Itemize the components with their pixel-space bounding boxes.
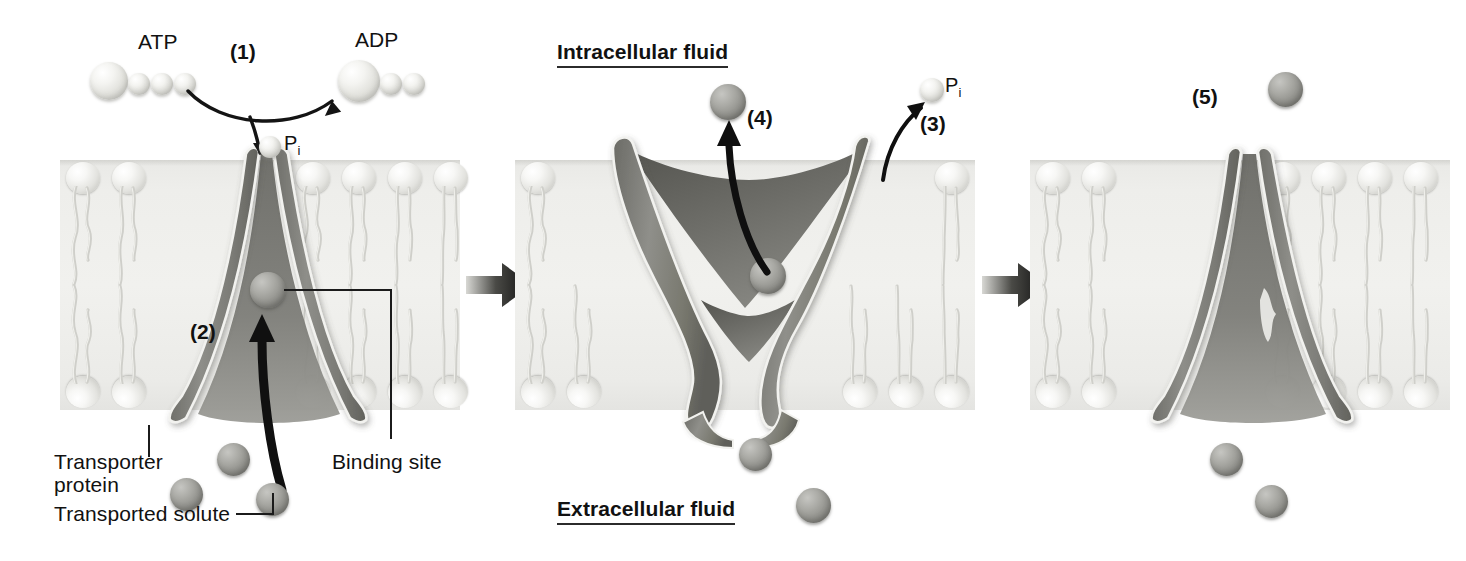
diagram-canvas: ATP ADP (1) Pi (2) (0, 0, 1466, 561)
adp-phosphate-2 (403, 73, 425, 95)
phospholipid (60, 285, 106, 410)
atp-phosphate-2 (151, 73, 173, 95)
solute-exit-arrow-step-4 (705, 112, 815, 282)
step-5-label: (5) (1192, 85, 1218, 109)
free-solute-p3-b (1255, 485, 1288, 518)
phosphate-letter-p2: P (945, 74, 958, 96)
atp-phosphate-1 (128, 73, 150, 95)
phospholipid (106, 285, 152, 410)
transporter-protein-label-line2: protein (54, 473, 119, 497)
phospholipid (1076, 285, 1122, 410)
extracellular-fluid-label: Extracellular fluid (557, 497, 735, 525)
atp-adenosine-sphere (90, 62, 128, 100)
step-3-label: (3) (920, 112, 946, 136)
phospholipid (1030, 285, 1076, 410)
released-solute-p3 (1268, 72, 1303, 107)
transported-solute-label: Transported solute (54, 502, 230, 526)
step-4-label: (4) (747, 106, 773, 130)
phosphate-sphere-p2 (920, 78, 944, 102)
phospholipid (382, 160, 428, 285)
phosphate-letter: P (284, 132, 297, 154)
phospholipid (515, 285, 561, 410)
phosphate-label-p1: Pi (284, 132, 300, 159)
transporter-protein-label-line1: Transporter (54, 450, 163, 474)
atp-label: ATP (138, 30, 178, 54)
leader-binding-site-v (390, 289, 392, 439)
phospholipid (60, 160, 106, 285)
leader-transported-solute-h (236, 513, 274, 515)
free-solute-p1-a (217, 443, 250, 476)
transporter-protein-p3 (1138, 138, 1368, 458)
panel-2: Intracellular fluid Extracellular fluid … (515, 0, 975, 561)
phospholipid (1398, 160, 1444, 285)
binding-site-label: Binding site (332, 450, 442, 474)
phosphate-subscript: i (297, 143, 300, 158)
panel-1: ATP ADP (1) Pi (2) (60, 0, 460, 561)
panel-3: (5) (1030, 0, 1450, 561)
free-solute-p3-a (1210, 443, 1243, 476)
phospholipid (106, 160, 152, 285)
intracellular-fluid-label: Intracellular fluid (557, 40, 728, 68)
adp-label: ADP (355, 28, 398, 52)
phospholipid (1030, 160, 1076, 285)
adp-phosphate-1 (380, 73, 402, 95)
phospholipid (1076, 160, 1122, 285)
free-solute-p2-a (739, 438, 772, 471)
phosphate-subscript-p2: i (958, 85, 961, 100)
phospholipid (929, 285, 975, 410)
step-1-label: (1) (230, 40, 256, 64)
phospholipid (1398, 285, 1444, 410)
phosphate-sphere-p1 (259, 136, 281, 158)
leader-transported-solute-v (272, 493, 274, 515)
free-solute-p2-b (796, 488, 831, 523)
phospholipid (515, 160, 561, 285)
phosphate-label-p2: Pi (945, 74, 961, 101)
leader-binding-site-h (284, 289, 392, 291)
phospholipid (382, 285, 428, 410)
step-2-label: (2) (190, 320, 216, 344)
